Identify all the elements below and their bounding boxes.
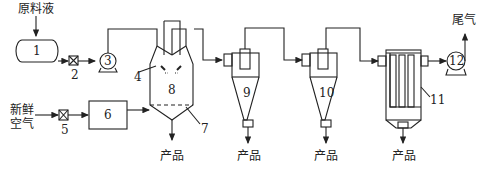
product-label-chamber: 产品 <box>160 150 184 162</box>
label-6: 6 <box>104 109 112 121</box>
label-12: 12 <box>449 55 464 67</box>
raw-liquid-label: 原料液 <box>18 3 54 15</box>
product-label-bag-filter: 产品 <box>392 150 416 162</box>
filter-2 <box>69 56 78 65</box>
label-2: 2 <box>71 69 79 81</box>
product-label-cyclone-9: 产品 <box>237 150 261 162</box>
air-filter-5 <box>59 110 68 120</box>
product-label-cyclone-10: 产品 <box>314 150 338 162</box>
label-9: 9 <box>243 87 251 99</box>
label-11: 11 <box>430 94 445 106</box>
label-3: 3 <box>104 55 112 67</box>
label-4: 4 <box>134 71 142 83</box>
label-10: 10 <box>319 87 334 99</box>
label-8: 8 <box>168 84 176 96</box>
cyclone-9 <box>224 49 259 127</box>
label-1: 1 <box>33 45 41 57</box>
fresh-air-label-line2: 空气 <box>10 118 34 130</box>
exhaust-label: 尾气 <box>452 14 476 26</box>
label-5: 5 <box>61 124 69 136</box>
fresh-air-label-line1: 新鲜 <box>10 104 34 116</box>
bag-filter-11 <box>378 50 428 128</box>
spray-drying-process-diagram: 原料液 新鲜 空气 尾气 产品 产品 产品 产品 1 2 3 4 5 6 7 8… <box>0 0 484 173</box>
label-7: 7 <box>201 123 209 135</box>
